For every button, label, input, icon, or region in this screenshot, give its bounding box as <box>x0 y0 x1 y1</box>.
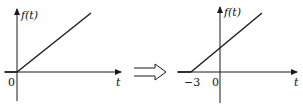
right-ramp-line <box>191 13 262 72</box>
right-shift-label: −3 <box>184 76 200 89</box>
time-shift-diagram: f(t) 0 t f(t) −3 0 t <box>0 0 303 111</box>
implies-arrow-icon <box>134 64 166 80</box>
right-x-label: t <box>294 76 299 89</box>
right-y-label: f(t) <box>223 6 241 19</box>
right-graph: f(t) −3 0 t <box>177 6 299 103</box>
left-y-label: f(t) <box>20 9 38 22</box>
left-origin-label: 0 <box>8 76 15 89</box>
left-graph: f(t) 0 t <box>4 9 121 101</box>
left-x-label: t <box>116 76 121 89</box>
right-origin-label: 0 <box>212 76 219 89</box>
